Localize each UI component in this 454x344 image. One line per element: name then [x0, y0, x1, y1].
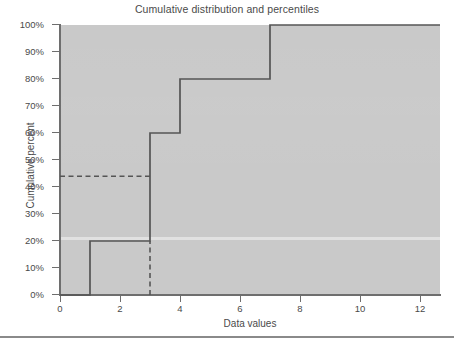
- ecdf-step-line: [60, 25, 440, 295]
- chart-data-layer: [0, 0, 454, 344]
- figure-container: Cumulative distribution and percentiles …: [0, 0, 454, 344]
- page-bottom-rule: [0, 336, 454, 338]
